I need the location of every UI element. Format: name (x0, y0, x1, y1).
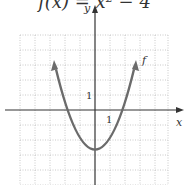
chart-plot: x y 1 1 f (0, 0, 189, 185)
y-tick-label: 1 (86, 90, 92, 101)
x-tick-label: 1 (106, 114, 112, 125)
x-axis-label: x (176, 116, 183, 129)
curve-label: f (141, 54, 148, 67)
y-axis-label: y (83, 2, 91, 15)
